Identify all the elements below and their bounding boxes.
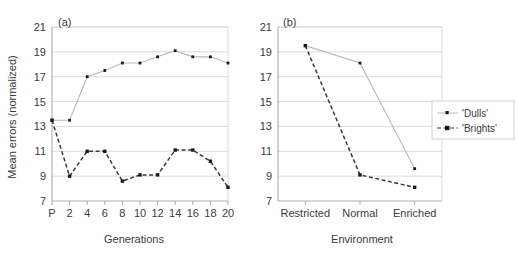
panel-b-xlabel: Environment — [331, 233, 393, 245]
data-point-brights — [86, 150, 89, 153]
panel-a-y-tick-labels: 21 19 17 15 13 11 9 7 — [34, 21, 46, 207]
y-tick-label: 9 — [40, 170, 46, 182]
series-line-dulls — [52, 51, 228, 121]
data-point-dulls — [209, 55, 212, 58]
x-tick-label: 20 — [222, 207, 234, 219]
legend-brights-label: 'Brights' — [462, 123, 497, 134]
panel-b-label: (b) — [283, 16, 296, 28]
series-line-brights — [52, 120, 228, 187]
data-point-dulls — [103, 69, 106, 72]
data-point-brights — [50, 119, 53, 122]
x-tick-label: 12 — [151, 207, 163, 219]
panel-b-x-tick-labels: RestrictedNormalEnriched — [281, 207, 437, 219]
y-tick-label: 9 — [266, 170, 272, 182]
x-tick-label: P — [48, 207, 55, 219]
y-tick-label: 11 — [261, 145, 272, 157]
data-point-brights — [209, 160, 212, 163]
series-line-brights — [305, 46, 414, 188]
y-tick-label: 19 — [260, 46, 272, 58]
x-tick-label: 14 — [169, 207, 181, 219]
data-point-brights — [103, 150, 106, 153]
data-point-dulls — [156, 55, 159, 58]
y-tick-label: 7 — [40, 195, 46, 207]
data-point-dulls — [121, 62, 124, 65]
data-point-brights — [226, 186, 229, 189]
panel-b-y-tick-labels: 21 19 17 15 13 11 9 7 — [260, 21, 272, 207]
data-point-dulls — [413, 167, 416, 170]
panel-a-ylabel: Mean errors (normalized) — [6, 55, 18, 178]
data-point-brights — [68, 174, 71, 177]
panel-b-x-ticks — [305, 201, 414, 205]
x-tick-label: 8 — [119, 207, 125, 219]
panel-a-series-group — [50, 49, 229, 189]
data-point-brights — [156, 173, 159, 176]
x-tick-label: 18 — [204, 207, 216, 219]
y-tick-label: 17 — [34, 71, 46, 83]
chart-legend: 'Dulls' 'Brights' — [432, 101, 514, 139]
y-tick-label: 13 — [260, 120, 272, 132]
legend-dulls-label: 'Dulls' — [462, 108, 488, 119]
x-tick-label: 4 — [84, 207, 90, 219]
x-tick-label: 6 — [102, 207, 108, 219]
panel-a-x-ticks — [52, 201, 228, 205]
y-tick-label: 17 — [260, 71, 272, 83]
x-tick-label: Enriched — [393, 207, 436, 219]
data-point-brights — [358, 173, 361, 176]
chart-panel-a: 21 19 17 15 13 11 9 7 P2468101214161820 … — [0, 0, 240, 255]
data-point-brights — [191, 148, 194, 151]
x-tick-label: 16 — [187, 207, 199, 219]
panel-a-xlabel: Generations — [104, 233, 164, 245]
data-point-dulls — [86, 75, 89, 78]
legend-brights-marker — [445, 126, 449, 130]
x-tick-label: 2 — [67, 207, 73, 219]
data-point-brights — [304, 44, 307, 47]
y-tick-label: 19 — [34, 46, 46, 58]
data-point-brights — [413, 186, 416, 189]
data-point-dulls — [359, 62, 362, 65]
data-point-dulls — [68, 119, 71, 122]
data-point-brights — [121, 179, 124, 182]
figure-container: 21 19 17 15 13 11 9 7 P2468101214161820 … — [0, 0, 518, 255]
y-tick-label: 15 — [260, 96, 272, 108]
x-tick-label: Restricted — [281, 207, 331, 219]
panel-a-svg: 21 19 17 15 13 11 9 7 P2468101214161820 … — [0, 0, 240, 255]
data-point-dulls — [139, 62, 142, 65]
data-point-brights — [138, 173, 141, 176]
y-tick-label: 15 — [34, 96, 46, 108]
y-tick-label: 7 — [266, 195, 272, 207]
panel-a-label: (a) — [58, 16, 71, 28]
data-point-dulls — [227, 62, 230, 65]
panel-a-x-tick-labels: P2468101214161820 — [48, 207, 234, 219]
legend-dulls-marker — [446, 111, 449, 114]
chart-panel-b: 21 19 17 15 13 11 9 7 RestrictedNormalEn… — [240, 0, 518, 255]
data-point-dulls — [174, 49, 177, 52]
y-tick-label: 21 — [260, 21, 272, 33]
y-tick-label: 13 — [34, 120, 46, 132]
y-tick-label: 11 — [35, 145, 46, 157]
y-tick-label: 21 — [34, 21, 46, 33]
x-tick-label: 10 — [134, 207, 146, 219]
panel-b-series-group — [304, 44, 417, 189]
data-point-dulls — [191, 55, 194, 58]
data-point-brights — [174, 148, 177, 151]
panel-b-svg: 21 19 17 15 13 11 9 7 RestrictedNormalEn… — [240, 0, 518, 255]
x-tick-label: Normal — [342, 207, 377, 219]
